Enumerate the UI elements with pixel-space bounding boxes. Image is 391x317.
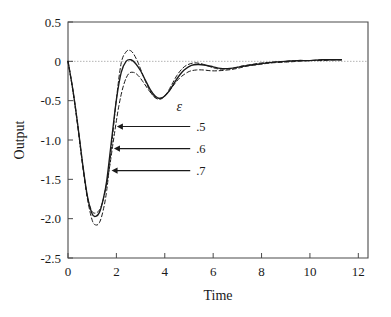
x-tick-label: 10	[303, 264, 316, 279]
y-tick-label: -0.5	[40, 93, 61, 108]
y-tick-label: 0.5	[45, 15, 61, 30]
y-tick-label: -1.5	[40, 172, 61, 187]
x-tick-label: 4	[162, 264, 169, 279]
line-chart: 0.50-0.5-1.0-1.5-2.0-2.5 024681012 ε.5.6…	[0, 0, 391, 317]
x-tick-label: 12	[352, 264, 365, 279]
y-tick-label: 0	[55, 54, 62, 69]
x-axis-title: Time	[203, 288, 232, 303]
x-tick-label: 2	[113, 264, 120, 279]
y-tick-label: -2.5	[40, 251, 61, 266]
x-tick-label: 0	[65, 264, 72, 279]
callout-label-7: .7	[196, 164, 205, 178]
callout-label-6: .6	[196, 142, 205, 156]
y-tick-label: -1.0	[40, 133, 61, 148]
x-tick-label: 6	[210, 264, 217, 279]
y-tick-label: -2.0	[40, 211, 61, 226]
epsilon-symbol: ε	[177, 99, 183, 114]
callout-label-5: .5	[196, 120, 205, 134]
chart-background	[0, 0, 391, 317]
y-axis-title: Output	[12, 120, 27, 159]
figure-container: 0.50-0.5-1.0-1.5-2.0-2.5 024681012 ε.5.6…	[0, 0, 391, 317]
x-tick-label: 8	[258, 264, 265, 279]
